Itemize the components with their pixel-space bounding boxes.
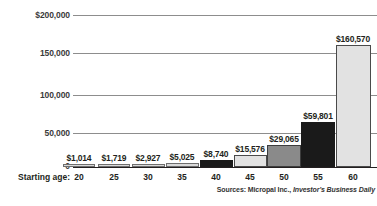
- bar-age-25: [98, 164, 130, 167]
- source-prefix: Sources: Micropal Inc.,: [217, 186, 293, 193]
- plot-area: $1,01420$1,71925$2,92730$5,02535$8,74040…: [0, 0, 377, 206]
- bar-age-55: [301, 122, 335, 167]
- bar-age-50: [267, 145, 301, 167]
- bar-chart: $200,000 150,000 100,000 50,000 0 Starti…: [0, 0, 377, 206]
- bar-age-60: [336, 45, 371, 167]
- x-label-age-60: 60: [333, 172, 373, 182]
- source-publication: Investor's Business Daily: [293, 186, 375, 193]
- source-note: Sources: Micropal Inc., Investor's Busin…: [217, 186, 375, 193]
- x-label-age-55: 55: [298, 172, 338, 182]
- value-label-age-60: $160,570: [325, 34, 377, 44]
- bar-age-45: [234, 155, 267, 167]
- x-label-age-20: 20: [59, 172, 99, 182]
- bar-age-20: [63, 164, 95, 167]
- bar-age-30: [132, 164, 165, 167]
- bar-age-35: [166, 163, 199, 167]
- bar-age-40: [200, 160, 233, 167]
